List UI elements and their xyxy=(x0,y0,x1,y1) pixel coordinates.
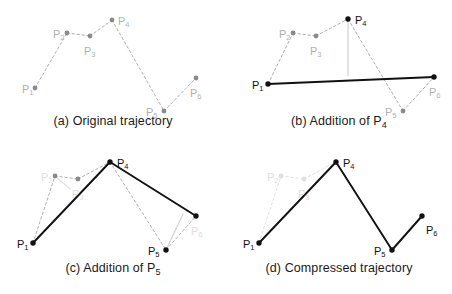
point-label-subscript: 4 xyxy=(125,20,129,29)
point-p2 xyxy=(279,174,284,179)
point-label-subscript: 2 xyxy=(286,33,290,42)
point-p2 xyxy=(65,31,70,36)
point-label-p2: P2 xyxy=(279,28,291,42)
panel-a-caption: (a) Original trajectory xyxy=(0,114,226,128)
point-label-subscript: 1 xyxy=(24,243,28,252)
point-p3 xyxy=(88,34,93,39)
point-label-subscript: 6 xyxy=(197,92,201,101)
point-label-subscript: 3 xyxy=(317,50,321,59)
point-label-p5: P5 xyxy=(148,245,160,259)
point-label-p4: P4 xyxy=(117,157,129,171)
segment-p1-p2 xyxy=(259,176,281,243)
caption-prefix: (d) xyxy=(266,261,285,275)
point-label-p3: P3 xyxy=(72,188,84,202)
point-p6 xyxy=(419,213,424,218)
panel-b-caption: (b) Addition of P4 xyxy=(226,114,452,128)
segment-p1-p6 xyxy=(268,77,434,84)
point-label-subscript: 5 xyxy=(155,250,159,259)
panel-d-plot: P1P2P3P4P5P6 xyxy=(226,147,452,267)
segment-p2-p3 xyxy=(293,33,316,36)
point-p2 xyxy=(291,31,296,36)
point-p5 xyxy=(162,109,167,114)
segment-p1-p2 xyxy=(33,176,55,243)
point-label-p1: P1 xyxy=(17,238,29,252)
segment-p3-p4 xyxy=(90,20,112,36)
point-label-subscript: 1 xyxy=(29,88,33,97)
segment-p3-p4 xyxy=(78,162,110,179)
point-label-p4: P4 xyxy=(343,157,355,171)
panel-d-caption: (d) Compressed trajectory xyxy=(226,261,452,275)
point-label-subscript: 3 xyxy=(91,50,95,59)
point-p3 xyxy=(76,177,81,182)
point-label-p3: P3 xyxy=(84,45,96,59)
caption-text: Original trajectory xyxy=(73,114,173,128)
point-label-subscript: 3 xyxy=(305,193,309,202)
point-label-subscript: 6 xyxy=(436,91,440,100)
panel-b-plot: P1P2P3P4P5P6 xyxy=(226,0,452,120)
point-label-p2: P2 xyxy=(53,28,65,42)
point-label-p6: P6 xyxy=(191,225,203,239)
point-p6 xyxy=(193,213,198,218)
point-label-p2: P2 xyxy=(267,171,279,185)
point-p6 xyxy=(194,76,199,81)
segment-p3-p4 xyxy=(304,162,336,179)
segment-p4-p5 xyxy=(112,20,164,111)
point-label-p4: P4 xyxy=(118,15,130,29)
point-label-subscript: 3 xyxy=(79,193,83,202)
segment-p4-p5 xyxy=(336,162,392,250)
caption-prefix: (a) xyxy=(53,114,72,128)
point-p4 xyxy=(107,159,112,164)
point-p5 xyxy=(389,247,394,252)
point-label-subscript: 4 xyxy=(350,162,354,171)
point-p6 xyxy=(431,74,436,79)
caption-prefix: (c) xyxy=(65,261,83,275)
point-label-p1: P1 xyxy=(252,79,264,93)
point-label-subscript: 1 xyxy=(250,243,254,252)
panel-c: P1P2P3P4P5P6(c) Addition of P5 xyxy=(0,147,226,294)
point-label-subscript: 1 xyxy=(259,84,263,93)
point-p4 xyxy=(110,18,115,23)
segment-p4-p5 xyxy=(110,162,166,250)
point-label-p4: P4 xyxy=(355,14,367,28)
caption-text: Compressed trajectory xyxy=(285,261,413,275)
caption-text: Addition of P xyxy=(83,261,155,275)
point-label-p1: P1 xyxy=(22,83,34,97)
point-label-p6: P6 xyxy=(426,224,438,238)
caption-subscript: 5 xyxy=(155,267,160,277)
caption-text: Addition of P xyxy=(310,114,382,128)
point-label-p3: P3 xyxy=(310,45,322,59)
point-label-subscript: 2 xyxy=(274,176,278,185)
point-p1 xyxy=(256,240,261,245)
point-label-p2: P2 xyxy=(41,171,53,185)
point-label-p1: P1 xyxy=(243,238,255,252)
point-p3 xyxy=(302,177,307,182)
segment-p5-p6 xyxy=(392,216,422,250)
point-label-p6: P6 xyxy=(429,86,441,100)
panel-a: P1P2P3P4P5P6(a) Original trajectory xyxy=(0,0,226,147)
panel-a-plot: P1P2P3P4P5P6 xyxy=(0,0,226,120)
point-label-p6: P6 xyxy=(190,87,202,101)
point-label-subscript: 4 xyxy=(362,19,366,28)
point-label-subscript: 6 xyxy=(433,229,437,238)
point-p5 xyxy=(401,109,406,114)
point-label-subscript: 4 xyxy=(124,162,128,171)
point-p2 xyxy=(53,174,58,179)
point-p4 xyxy=(333,159,338,164)
caption-subscript: 4 xyxy=(382,120,387,130)
panel-b: P1P2P3P4P5P6(b) Addition of P4 xyxy=(226,0,452,147)
segment-p3-p4 xyxy=(316,19,348,36)
distance-p5-to-baseline xyxy=(166,214,183,250)
point-label-p3: P3 xyxy=(298,188,310,202)
segment-p4-p5 xyxy=(348,19,403,111)
point-label-p5: P5 xyxy=(374,245,386,259)
point-label-subscript: 2 xyxy=(48,176,52,185)
trajectory-compression-figure: P1P2P3P4P5P6(a) Original trajectoryP1P2P… xyxy=(0,0,452,294)
point-p3 xyxy=(314,34,319,39)
caption-prefix: (b) xyxy=(291,114,309,128)
point-p1 xyxy=(30,240,35,245)
point-p1 xyxy=(265,81,270,86)
segment-p2-p3 xyxy=(67,33,90,36)
panel-c-caption: (c) Addition of P5 xyxy=(0,261,226,275)
point-label-subscript: 6 xyxy=(198,230,202,239)
panel-d: P1P2P3P4P5P6(d) Compressed trajectory xyxy=(226,147,452,294)
